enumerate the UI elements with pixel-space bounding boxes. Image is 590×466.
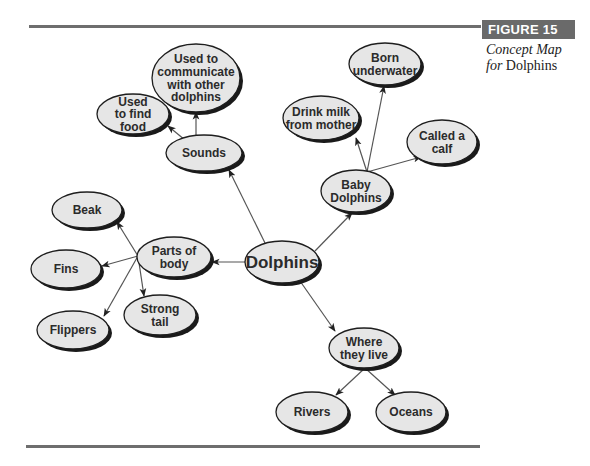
- node-where-they-live: Wherethey live: [329, 328, 402, 371]
- node-drink-milk: Drink milkfrom mother: [283, 96, 362, 143]
- node-born-underwater: Bornunderwater: [349, 43, 424, 88]
- node-label: dolphins: [171, 90, 221, 104]
- edge-dolphins-to-sounds: [229, 170, 265, 243]
- node-baby-dolphins: BabyDolphins: [321, 170, 394, 215]
- edge-where-they-live-to-rivers: [336, 368, 365, 395]
- node-beak: Beak: [52, 192, 125, 231]
- node-strong-tail: Strongtail: [124, 295, 199, 338]
- nodes-layer: DolphinsSoundsUsed tocommunicatewith oth…: [31, 43, 480, 435]
- node-called-calf: Called acalf: [407, 120, 480, 167]
- node-label: underwater: [353, 64, 418, 78]
- node-label: Dolphins: [330, 191, 382, 205]
- node-label: from mother: [286, 118, 357, 132]
- node-sounds: Sounds: [166, 135, 245, 174]
- node-rivers: Rivers: [276, 392, 351, 435]
- edge-baby-dolphins-to-called-calf: [367, 157, 421, 172]
- node-label: Beak: [73, 203, 102, 217]
- node-communicate: Used tocommunicatewith otherdolphins: [152, 44, 243, 115]
- node-label: Fins: [54, 262, 79, 276]
- node-fins: Fins: [31, 250, 104, 291]
- node-dolphins: Dolphins: [245, 241, 322, 286]
- edge-dolphins-to-baby-dolphins: [315, 213, 352, 251]
- node-parts-of-body: Parts ofbody: [137, 237, 214, 280]
- node-label: Rivers: [294, 405, 331, 419]
- edge-where-they-live-to-oceans: [365, 368, 395, 395]
- edge-baby-dolphins-to-born-underwater: [367, 86, 384, 172]
- node-label: Oceans: [389, 405, 433, 419]
- edge-dolphins-to-where-they-live: [300, 281, 335, 331]
- node-label: body: [160, 257, 189, 271]
- edge-parts-of-body-to-beak: [117, 222, 138, 256]
- edge-baby-dolphins-to-drink-milk: [356, 138, 367, 172]
- node-flippers: Flippers: [37, 311, 112, 352]
- node-label: food: [120, 120, 146, 134]
- node-find-food: Usedto findfood: [97, 94, 172, 137]
- node-label: Flippers: [50, 323, 97, 337]
- node-label: Sounds: [182, 146, 226, 160]
- node-label: they live: [340, 348, 388, 362]
- node-label: calf: [432, 142, 454, 156]
- node-oceans: Oceans: [376, 392, 449, 435]
- node-label: Dolphins: [246, 253, 319, 272]
- concept-map: DolphinsSoundsUsed tocommunicatewith oth…: [0, 0, 590, 466]
- node-label: tail: [151, 315, 168, 329]
